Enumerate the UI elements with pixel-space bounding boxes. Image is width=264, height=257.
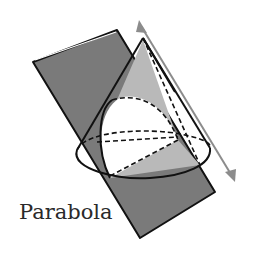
arrow-head-top xyxy=(136,20,147,33)
arrow-head-bottom xyxy=(225,169,236,182)
figure-caption: Parabola xyxy=(19,200,113,224)
